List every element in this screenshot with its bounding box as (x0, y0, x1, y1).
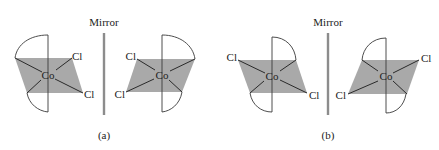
molecule-b-left: Co Cl Cl (227, 37, 320, 112)
panel-label-a: (a) (98, 129, 111, 142)
cl-label: Cl (115, 88, 125, 100)
chelate-ring-lower (386, 94, 406, 113)
cl-label: Cl (336, 89, 346, 101)
chelate-ring-lower (250, 93, 272, 112)
mirror-label-b: Mirror (313, 16, 343, 28)
cl-label: Cl (421, 52, 431, 64)
cl-label: Cl (72, 50, 82, 62)
mirror-label-a: Mirror (89, 16, 119, 28)
molecule-a-left: Co Cl Cl (15, 35, 94, 112)
chelate-ring-upper (162, 35, 195, 59)
chelate-ring-upper (15, 35, 48, 58)
cl-label: Cl (126, 50, 136, 62)
panel-b: Mirror Co Cl Cl Co Cl (227, 16, 432, 142)
molecule-a-right: Co Cl Cl (115, 35, 195, 112)
panel-a: Mirror Co Cl Cl (15, 16, 195, 142)
co-label: Co (266, 70, 279, 82)
co-label: Co (380, 70, 393, 82)
co-label: Co (42, 69, 55, 81)
panel-label-b: (b) (322, 129, 335, 142)
cl-label: Cl (227, 51, 237, 63)
chelate-ring-upper (362, 38, 386, 60)
chelate-ring-lower (27, 93, 48, 112)
cl-label: Cl (309, 89, 319, 101)
chelate-ring-upper (272, 37, 296, 60)
chelate-ring-lower (162, 92, 182, 112)
molecule-b-right: Co Cl Cl (336, 38, 432, 113)
co-label: Co (156, 69, 169, 81)
cl-label: Cl (84, 88, 94, 100)
figure-stage: Mirror Co Cl Cl (0, 0, 439, 150)
